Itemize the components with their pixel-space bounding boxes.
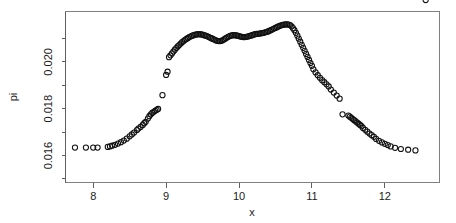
data-point xyxy=(164,72,169,77)
x-tick-label: 8 xyxy=(90,190,96,202)
chart-canvas: 0.0160.0180.020 89101112 x pi xyxy=(0,0,456,223)
data-point xyxy=(413,148,418,153)
y-tick-label: 0.016 xyxy=(42,142,54,170)
data-point xyxy=(83,145,88,150)
data-point-group xyxy=(72,0,428,153)
data-point xyxy=(331,90,336,95)
data-point xyxy=(72,145,77,150)
data-point xyxy=(337,96,342,101)
data-point xyxy=(334,93,339,98)
y-axis-title: pi xyxy=(7,93,19,102)
x-tick-label: 10 xyxy=(233,190,245,202)
data-point xyxy=(398,146,403,151)
x-tick-label: 12 xyxy=(379,190,391,202)
data-point xyxy=(165,69,170,74)
scatter-plot-figure: 0.0160.0180.020 89101112 x pi xyxy=(0,0,456,223)
y-axis-ticks: 0.0160.0180.020 xyxy=(42,38,66,179)
y-tick-label: 0.018 xyxy=(42,95,54,123)
data-point xyxy=(340,112,345,117)
x-tick-label: 11 xyxy=(306,190,317,202)
x-tick-label: 9 xyxy=(163,190,169,202)
data-point xyxy=(406,147,411,152)
y-tick-label: 0.020 xyxy=(42,48,54,76)
x-axis-ticks: 89101112 xyxy=(90,183,391,202)
x-axis-title: x xyxy=(249,206,255,218)
data-point xyxy=(423,0,428,3)
data-point xyxy=(160,93,165,98)
